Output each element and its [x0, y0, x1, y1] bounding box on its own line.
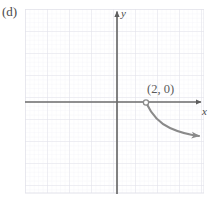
open-circle-point: [143, 100, 148, 105]
figure-panel: (d): [0, 0, 220, 201]
grid-background: [25, 9, 204, 193]
y-axis-label: y: [121, 8, 126, 19]
panel-label: (d): [2, 5, 17, 18]
coordinate-plane-svg: [25, 9, 204, 194]
plot-area: [25, 9, 204, 194]
x-axis-label: x: [202, 106, 207, 117]
point-coordinate-label: (2, 0): [147, 83, 174, 96]
